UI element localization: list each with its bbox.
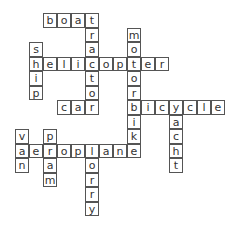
crossword-cell[interactable]: o (127, 71, 141, 86)
crossword-cell[interactable]: r (85, 173, 99, 188)
crossword-cell[interactable]: o (85, 158, 99, 173)
crossword-cell[interactable]: t (169, 158, 183, 173)
crossword-cell[interactable]: h (169, 144, 183, 159)
crossword-cell[interactable]: a (43, 158, 57, 173)
crossword-cell[interactable]: o (57, 144, 71, 159)
crossword-cell[interactable]: e (141, 57, 155, 72)
crossword-cell[interactable]: y (85, 202, 99, 217)
crossword-cell[interactable]: b (43, 13, 57, 28)
crossword-cell[interactable]: t (127, 57, 141, 72)
crossword-cell[interactable]: p (29, 86, 43, 101)
crossword-cell[interactable]: t (85, 13, 99, 28)
crossword-cell[interactable]: a (99, 144, 113, 159)
crossword-cell[interactable]: i (29, 71, 43, 86)
crossword-cell[interactable]: r (155, 57, 169, 72)
crossword-cell[interactable]: r (85, 187, 99, 202)
crossword-cell[interactable]: e (29, 144, 43, 159)
crossword-cell[interactable]: t (85, 71, 99, 86)
crossword-cell[interactable]: o (127, 42, 141, 57)
crossword-cell[interactable]: n (113, 144, 127, 159)
crossword-cell[interactable]: l (197, 100, 211, 115)
crossword-cell[interactable]: p (71, 144, 85, 159)
crossword-cell[interactable]: i (127, 115, 141, 130)
crossword-cell[interactable]: r (127, 86, 141, 101)
crossword-cell[interactable]: b (127, 100, 141, 115)
crossword-cell[interactable]: i (141, 100, 155, 115)
crossword-cell[interactable]: s (29, 42, 43, 57)
crossword-cell[interactable]: v (15, 129, 29, 144)
crossword-cell[interactable]: c (169, 129, 183, 144)
crossword-cell[interactable]: l (57, 57, 71, 72)
crossword-cell[interactable]: c (85, 57, 99, 72)
crossword-cell[interactable]: l (85, 144, 99, 159)
crossword-cell[interactable]: r (43, 144, 57, 159)
crossword-cell[interactable]: c (183, 100, 197, 115)
crossword-cell[interactable]: a (71, 100, 85, 115)
crossword-cell[interactable]: m (127, 28, 141, 43)
crossword-cell[interactable]: e (211, 100, 225, 115)
crossword-cell[interactable]: c (57, 100, 71, 115)
crossword-cell[interactable]: p (43, 129, 57, 144)
crossword-grid: boatractorshipelioptermoorbikecaicycleac… (0, 0, 240, 228)
crossword-cell[interactable]: o (99, 57, 113, 72)
crossword-cell[interactable]: a (15, 144, 29, 159)
crossword-cell[interactable]: a (169, 115, 183, 130)
crossword-cell[interactable]: p (113, 57, 127, 72)
crossword-cell[interactable]: a (85, 42, 99, 57)
crossword-cell[interactable]: e (43, 57, 57, 72)
crossword-cell[interactable]: r (85, 100, 99, 115)
crossword-cell[interactable]: n (15, 158, 29, 173)
crossword-cell[interactable]: e (127, 144, 141, 159)
crossword-cell[interactable]: i (71, 57, 85, 72)
crossword-cell[interactable]: m (43, 173, 57, 188)
crossword-cell[interactable]: o (85, 86, 99, 101)
crossword-cell[interactable]: y (169, 100, 183, 115)
crossword-cell[interactable]: c (155, 100, 169, 115)
crossword-cell[interactable]: h (29, 57, 43, 72)
crossword-cell[interactable]: o (57, 13, 71, 28)
crossword-cell[interactable]: k (127, 129, 141, 144)
crossword-cell[interactable]: r (85, 28, 99, 43)
crossword-cell[interactable]: a (71, 13, 85, 28)
